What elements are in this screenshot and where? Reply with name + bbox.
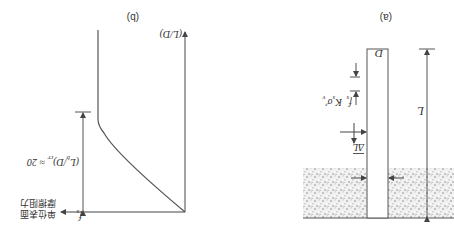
diagram-canvas: (a) (b) L D ΔL fs Ksσ′v (L/D) (Lb/D)cr ≈…: [0, 0, 454, 231]
panel-a-label: (a): [380, 12, 392, 23]
sigma-v-symbol: σ′: [325, 97, 332, 108]
skin-friction-curve: [98, 30, 185, 212]
critical-ratio-l: (L: [70, 157, 79, 168]
critical-ratio-value: ≈ 20: [27, 157, 45, 168]
panel-a: [303, 49, 454, 218]
pile-diameter-label: D: [375, 48, 383, 60]
y-axis-label: (L/D): [160, 29, 182, 40]
sigma-v-subscript: v: [322, 94, 325, 102]
fs-subscript: s: [346, 94, 349, 102]
critical-ratio-label: (Lb/D)cr ≈ 20: [27, 154, 79, 168]
x-axis-symbol: fs: [76, 208, 82, 222]
panel-b-label: (b): [127, 12, 139, 23]
x-axis-label: 单位表面 摩擦阻力: [20, 197, 56, 219]
skin-friction-formula: fs Ksσ′v: [322, 94, 352, 108]
critical-ratio-sub-b: b: [67, 154, 71, 162]
x-axis-label-line1: 单位表面: [20, 208, 56, 219]
panel-b: [61, 30, 185, 212]
delta-l-label: ΔL: [353, 142, 364, 154]
critical-ratio-d: /D): [53, 157, 66, 168]
ks-symbol: K: [335, 97, 342, 108]
pile-length-label: L: [417, 103, 424, 118]
x-axis-f: f: [79, 211, 82, 222]
critical-ratio-sub-cr: cr: [47, 154, 53, 162]
fs-symbol: f: [349, 97, 352, 108]
pile-skin-friction-figure: (a) (b) L D ΔL fs Ksσ′v (L/D) (Lb/D)cr ≈…: [0, 0, 454, 231]
x-axis-label-line2: 摩擦阻力: [20, 197, 56, 208]
soil-layer-right: [303, 168, 367, 218]
x-axis-sub-s: s: [76, 208, 79, 216]
pile: [367, 49, 388, 218]
soil-layer-left: [388, 168, 454, 218]
